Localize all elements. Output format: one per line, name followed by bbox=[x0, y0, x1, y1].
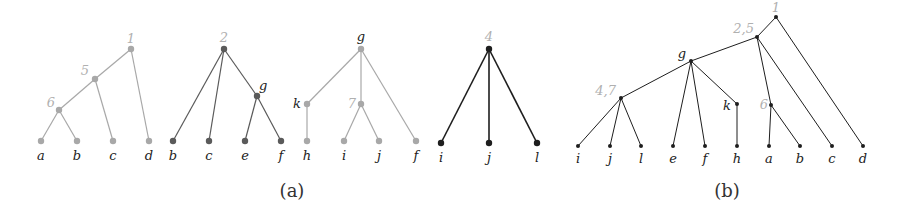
internal-node-label: g bbox=[357, 29, 365, 44]
internal-node-label: 1 bbox=[772, 0, 780, 15]
node-a bbox=[38, 138, 44, 144]
edge-g-e bbox=[673, 61, 691, 146]
node-b bbox=[798, 144, 802, 148]
caption-b: (b) bbox=[714, 180, 740, 201]
internal-node-label: 2,5 bbox=[732, 21, 754, 36]
internal-node-label: 2 bbox=[219, 30, 228, 45]
node-f bbox=[703, 144, 707, 148]
internal-node-label: k bbox=[293, 96, 301, 111]
node-n1 bbox=[128, 46, 134, 52]
edge-n47-i bbox=[578, 98, 621, 146]
edge-n4-i bbox=[441, 49, 489, 143]
leaf-label: d bbox=[145, 148, 153, 163]
leaf-label: a bbox=[765, 151, 773, 166]
leaf-label: c bbox=[109, 148, 117, 163]
node-n47 bbox=[619, 96, 623, 100]
internal-node-label: g bbox=[259, 78, 267, 93]
node-e bbox=[671, 144, 675, 148]
leaf-label: f bbox=[278, 148, 286, 163]
node-c bbox=[830, 144, 834, 148]
leaf-label: a bbox=[37, 148, 45, 163]
node-n2 bbox=[221, 46, 227, 52]
edge-n2-g bbox=[224, 49, 257, 96]
leaf-label: e bbox=[241, 148, 249, 163]
edge-n1-d bbox=[776, 17, 863, 146]
node-h bbox=[735, 144, 739, 148]
node-j bbox=[608, 144, 612, 148]
leaf-label: h bbox=[733, 151, 741, 166]
leaf-label: j bbox=[484, 150, 491, 165]
node-g bbox=[358, 46, 364, 52]
node-g bbox=[254, 93, 260, 99]
leaf-label: l bbox=[535, 150, 539, 165]
edge-g-n47 bbox=[621, 61, 691, 98]
leaf-label: f bbox=[702, 151, 710, 166]
node-k bbox=[304, 101, 310, 107]
edge-g-e bbox=[245, 96, 257, 141]
edge-g-f bbox=[691, 61, 705, 146]
leaf-label: i bbox=[342, 148, 346, 163]
internal-node-label: 6 bbox=[47, 95, 55, 110]
node-f bbox=[413, 138, 419, 144]
leaf-label: f bbox=[413, 148, 421, 163]
node-c bbox=[206, 138, 212, 144]
leaf-label: e bbox=[669, 151, 677, 166]
edge-n6-a bbox=[769, 105, 771, 146]
edge-n6-b bbox=[771, 105, 800, 146]
leaf-label: c bbox=[828, 151, 836, 166]
tree-2: 2gbcef bbox=[169, 30, 286, 163]
node-n6 bbox=[56, 107, 62, 113]
node-j bbox=[486, 140, 492, 146]
leaf-label: l bbox=[639, 151, 643, 166]
leaf-label: b bbox=[796, 151, 804, 166]
edge-n6-b bbox=[59, 110, 77, 141]
edge-n25-g bbox=[691, 37, 757, 61]
leaf-label: i bbox=[439, 150, 443, 165]
node-n1 bbox=[774, 15, 778, 19]
edge-g-f bbox=[361, 49, 416, 141]
edge-n47-j bbox=[610, 98, 621, 146]
internal-node-label: 7 bbox=[348, 96, 357, 111]
node-c bbox=[110, 138, 116, 144]
node-e bbox=[242, 138, 248, 144]
tree-diagram: 156abcd 2gbcef gk7hijf 4ijl (a) 12,5g4,7… bbox=[0, 0, 906, 219]
internal-node-label: 6 bbox=[760, 97, 768, 112]
tree-3: gk7hijf bbox=[293, 29, 420, 163]
node-a bbox=[767, 144, 771, 148]
node-n7 bbox=[358, 101, 364, 107]
edge-n1-n5 bbox=[95, 49, 131, 79]
leaf-label: c bbox=[205, 148, 213, 163]
node-n5 bbox=[92, 76, 98, 82]
edge-n5-n6 bbox=[59, 79, 95, 110]
leaf-label: b bbox=[169, 148, 177, 163]
internal-node-label: g bbox=[678, 46, 686, 61]
node-n6 bbox=[769, 103, 773, 107]
panel-b: 12,5g4,7k6ijlefhabcd (b) bbox=[576, 0, 867, 201]
caption-a: (a) bbox=[280, 180, 305, 201]
edge-n6-a bbox=[41, 110, 59, 141]
node-h bbox=[304, 138, 310, 144]
tree-combined: 12,5g4,7k6ijlefhabcd bbox=[576, 0, 867, 166]
node-k bbox=[735, 102, 739, 106]
edge-n5-c bbox=[95, 79, 113, 141]
node-n25 bbox=[755, 35, 759, 39]
edge-n4-l bbox=[489, 49, 537, 143]
leaf-label: j bbox=[605, 151, 612, 166]
tree-4: 4ijl bbox=[438, 29, 540, 165]
leaf-label: j bbox=[374, 148, 381, 163]
node-d bbox=[146, 138, 152, 144]
node-l bbox=[534, 140, 540, 146]
leaf-label: i bbox=[576, 151, 580, 166]
internal-node-label: k bbox=[723, 98, 731, 113]
node-g bbox=[689, 59, 693, 63]
internal-node-label: 5 bbox=[81, 63, 89, 78]
internal-node-label: 1 bbox=[127, 31, 135, 46]
node-l bbox=[639, 144, 643, 148]
edge-n1-n25 bbox=[757, 17, 776, 37]
node-b bbox=[170, 138, 176, 144]
node-n4 bbox=[486, 46, 492, 52]
leaf-label: h bbox=[303, 148, 311, 163]
internal-node-label: 4,7 bbox=[594, 83, 616, 98]
edge-n7-j bbox=[361, 104, 379, 141]
node-d bbox=[861, 144, 865, 148]
